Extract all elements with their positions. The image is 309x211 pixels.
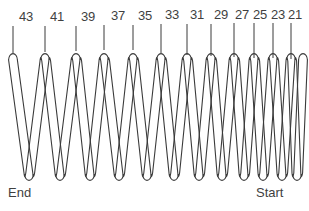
coil-number-21: 21 (288, 8, 302, 21)
coil-number-35: 35 (138, 9, 152, 22)
coil-number-43: 43 (19, 10, 33, 23)
coil-number-41: 41 (50, 10, 64, 23)
coil-number-29: 29 (214, 8, 228, 21)
coil-top-cap (9, 54, 18, 60)
coil-wire-group (9, 54, 308, 181)
spring-illustration (0, 0, 309, 211)
coil-number-23: 23 (271, 8, 285, 21)
leader-lines-group (13, 23, 291, 59)
start-label: Start (256, 186, 283, 199)
coil-top-cap (299, 54, 308, 60)
coil-number-33: 33 (165, 8, 179, 21)
coil-number-25: 25 (253, 8, 267, 21)
coil-number-27: 27 (235, 8, 249, 21)
spring-diagram: 434139373533312927252321 End Start (0, 0, 309, 211)
coil-number-39: 39 (81, 10, 95, 23)
end-label: End (8, 186, 31, 199)
coil-number-31: 31 (190, 8, 204, 21)
coil-number-37: 37 (111, 9, 125, 22)
